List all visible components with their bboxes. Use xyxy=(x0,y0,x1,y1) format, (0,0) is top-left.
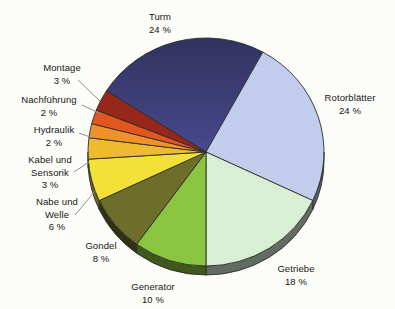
slice-percent: 6 % xyxy=(27,221,87,234)
slice-percent: 3 % xyxy=(20,179,80,192)
pie-chart-figure: Turm 24 % Rotorblätter 24 % Getriebe 18 … xyxy=(0,0,395,309)
slice-label-turm: Turm 24 % xyxy=(114,11,206,36)
slice-label-getriebe: Getriebe 18 % xyxy=(250,263,342,288)
slice-percent: 24 % xyxy=(304,105,395,118)
slice-label-nachfuehrung: Nachführung 2 % xyxy=(3,94,95,119)
slice-name: Nachführung xyxy=(3,94,95,107)
slice-percent: 24 % xyxy=(114,24,206,37)
slice-percent: 2 % xyxy=(3,107,95,120)
slice-name: Montage xyxy=(16,62,108,75)
pie-slices xyxy=(88,38,324,266)
slice-percent: 8 % xyxy=(55,253,147,266)
slice-name: Turm xyxy=(114,11,206,24)
slice-percent: 18 % xyxy=(250,276,342,289)
slice-label-rotorblaetter: Rotorblätter 24 % xyxy=(304,92,395,117)
slice-label-montage: Montage 3 % xyxy=(16,62,108,87)
slice-name: Gondel xyxy=(55,240,147,253)
slice-label-gondel: Gondel 8 % xyxy=(55,240,147,265)
slice-label-nabe-welle: Nabe und Welle 6 % xyxy=(27,196,87,234)
slice-name: Getriebe xyxy=(250,263,342,276)
slice-name: Nabe und Welle xyxy=(27,196,87,221)
slice-label-kabel-sensorik: Kabel und Sensorik 3 % xyxy=(20,154,80,192)
slice-name: Rotorblätter xyxy=(304,92,395,105)
slice-percent: 2 % xyxy=(8,137,100,150)
slice-name: Kabel und Sensorik xyxy=(20,154,80,179)
slice-label-hydraulik: Hydraulik 2 % xyxy=(8,124,100,149)
slice-percent: 10 % xyxy=(107,294,199,307)
slice-percent: 3 % xyxy=(16,75,108,88)
slice-name: Generator xyxy=(107,281,199,294)
slice-name: Hydraulik xyxy=(8,124,100,137)
slice-label-generator: Generator 10 % xyxy=(107,281,199,306)
